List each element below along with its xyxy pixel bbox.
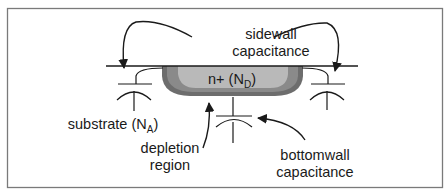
figure-frame — [8, 9, 443, 188]
sidewall-label-line2: capacitance — [232, 43, 309, 59]
junction-capacitance-diagram: sidewall capacitance n+ (ND) substrate (… — [0, 0, 447, 195]
substrate-label-main: substrate (N — [68, 116, 147, 132]
n-plus-label-main: n+ (N — [208, 71, 244, 87]
depletion-label-line1: depletion — [141, 140, 200, 156]
diagram-canvas: sidewall capacitance n+ (ND) substrate (… — [0, 0, 447, 195]
sidewall-label-line1: sidewall — [245, 26, 297, 42]
bottomwall-label-line1: bottomwall — [280, 147, 349, 163]
n-plus-label-subscript: D — [244, 79, 251, 90]
bottomwall-label-line2: capacitance — [276, 164, 353, 180]
depletion-label-line2: region — [150, 157, 190, 173]
n-plus-label-close: ) — [251, 71, 256, 87]
substrate-label-close: ) — [153, 116, 158, 132]
